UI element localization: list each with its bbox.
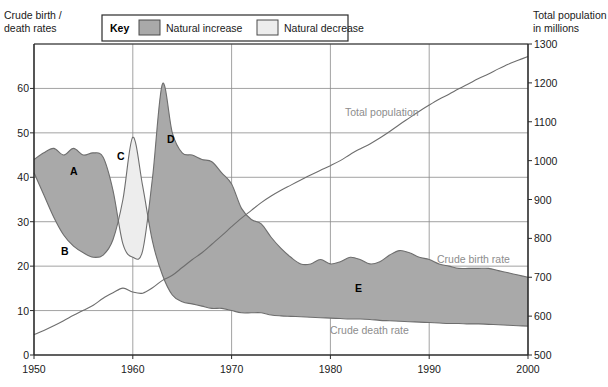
x-tick-label: 1950 xyxy=(22,363,46,375)
annotation-a: A xyxy=(70,165,78,177)
left-axis-title-line1: Crude birth / xyxy=(4,9,62,21)
right-tick-label: 1100 xyxy=(534,116,557,128)
left-tick-label: 40 xyxy=(17,171,29,183)
right-tick-label: 1000 xyxy=(534,155,558,167)
right-tick-label: 600 xyxy=(534,310,552,322)
left-axis-title-line2: death rates xyxy=(4,22,57,34)
legend: Key Natural increase Natural decrease xyxy=(102,15,364,41)
annotation-b: B xyxy=(61,245,69,257)
x-tick-label: 1980 xyxy=(319,363,343,375)
left-tick-label: 60 xyxy=(17,82,29,94)
series-label-crude-death-rate: Crude death rate xyxy=(330,324,409,336)
x-tick-label: 1960 xyxy=(121,363,145,375)
legend-swatch-natural-decrease xyxy=(257,20,278,35)
x-tick-label: 1970 xyxy=(220,363,244,375)
right-axis-title-line1: Total population xyxy=(533,9,607,21)
left-tick-label: 30 xyxy=(17,216,29,228)
legend-label-natural-decrease: Natural decrease xyxy=(284,22,364,34)
x-tick-label: 2000 xyxy=(516,363,540,375)
right-axis-title-line2: in millions xyxy=(533,22,579,34)
right-tick-label: 900 xyxy=(534,194,552,206)
series-label-total-population: Total population xyxy=(345,106,419,118)
right-tick-label: 700 xyxy=(534,271,552,283)
annotation-d: D xyxy=(167,133,175,145)
left-tick-label: 0 xyxy=(23,349,29,361)
chart-container: Crude birth / death rates Total populati… xyxy=(0,0,608,387)
legend-title: Key xyxy=(110,22,129,34)
right-tick-label: 800 xyxy=(534,232,552,244)
right-tick-label: 1200 xyxy=(534,77,558,89)
annotation-e: E xyxy=(355,282,362,294)
series-label-crude-birth-rate: Crude birth rate xyxy=(437,253,510,265)
x-tick-label: 1990 xyxy=(418,363,442,375)
legend-swatch-natural-increase xyxy=(139,20,160,35)
legend-label-natural-increase: Natural increase xyxy=(166,22,243,34)
annotation-c: C xyxy=(117,150,125,162)
right-tick-label: 1300 xyxy=(534,38,558,50)
right-tick-label: 500 xyxy=(534,349,552,361)
left-tick-label: 10 xyxy=(17,305,29,317)
demographic-transition-chart: Crude birth / death rates Total populati… xyxy=(0,0,608,387)
left-tick-label: 20 xyxy=(17,260,29,272)
left-tick-label: 50 xyxy=(17,127,29,139)
